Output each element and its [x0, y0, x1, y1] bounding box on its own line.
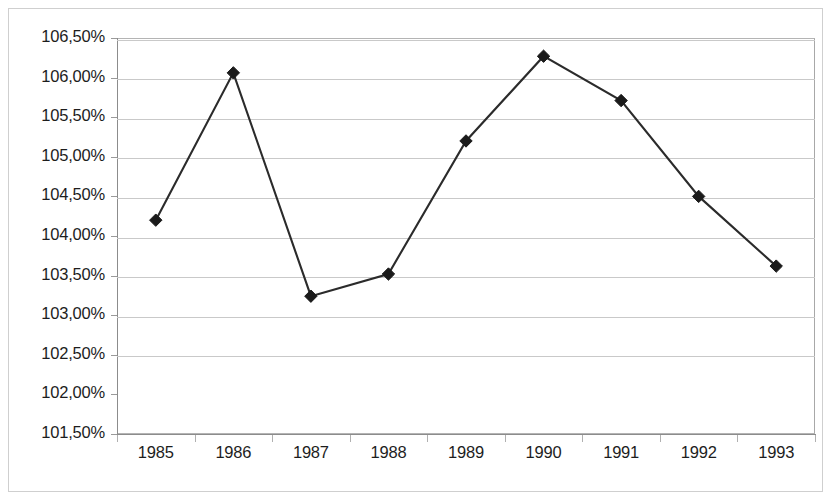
x-axis-tick-label: 1992 — [659, 443, 739, 462]
gridline — [117, 79, 815, 80]
y-axis-tick — [111, 276, 117, 277]
x-axis-tick — [582, 435, 583, 442]
x-axis-tick-label: 1989 — [426, 443, 506, 462]
y-axis-tick — [111, 355, 117, 356]
x-axis-tick-label: 1990 — [504, 443, 584, 462]
x-axis-tick — [117, 435, 118, 442]
y-axis-tick-label: 104,00% — [5, 225, 105, 244]
y-axis-line — [117, 38, 118, 435]
gridline — [117, 198, 815, 199]
x-axis-tick — [815, 435, 816, 442]
x-axis-tick — [195, 435, 196, 442]
plot-area — [117, 38, 815, 434]
x-axis-line — [117, 434, 816, 435]
y-axis-tick — [111, 196, 117, 197]
y-axis-tick — [111, 236, 117, 237]
x-axis-tick-label: 1993 — [736, 443, 816, 462]
y-axis-tick — [111, 315, 117, 316]
line-chart: 106,50%106,00%105,50%105,00%104,50%104,0… — [0, 0, 833, 501]
x-axis-tick-label: 1987 — [271, 443, 351, 462]
x-axis-tick-label: 1991 — [581, 443, 661, 462]
x-axis-tick-label: 1988 — [348, 443, 428, 462]
y-axis-tick-label: 101,50% — [5, 423, 105, 442]
x-axis-tick — [272, 435, 273, 442]
y-axis-tick-label: 106,00% — [5, 67, 105, 86]
gridline — [117, 40, 815, 41]
x-axis-tick — [737, 435, 738, 442]
y-axis-tick-label: 103,50% — [5, 265, 105, 284]
gridline — [117, 238, 815, 239]
gridline — [117, 356, 815, 357]
x-axis-tick — [350, 435, 351, 442]
y-axis-tick — [111, 117, 117, 118]
gridline — [117, 119, 815, 120]
gridline — [117, 158, 815, 159]
y-axis-tick-label: 102,00% — [5, 383, 105, 402]
y-axis-tick — [111, 38, 117, 39]
y-axis-tick — [111, 157, 117, 158]
y-axis-tick-label: 105,50% — [5, 106, 105, 125]
y-axis-tick-label: 102,50% — [5, 344, 105, 363]
x-axis-tick-label: 1986 — [193, 443, 273, 462]
y-axis-tick-label: 103,00% — [5, 304, 105, 323]
y-axis-tick-label: 104,50% — [5, 185, 105, 204]
y-axis-labels: 106,50%106,00%105,50%105,00%104,50%104,0… — [0, 0, 105, 501]
x-axis-tick — [660, 435, 661, 442]
x-axis-tick-label: 1985 — [116, 443, 196, 462]
x-axis-tick — [427, 435, 428, 442]
gridline — [117, 317, 815, 318]
gridline — [117, 277, 815, 278]
y-axis-tick-label: 105,00% — [5, 146, 105, 165]
x-axis-tick — [505, 435, 506, 442]
y-axis-tick — [111, 78, 117, 79]
y-axis-tick — [111, 394, 117, 395]
y-axis-tick-label: 106,50% — [5, 27, 105, 46]
